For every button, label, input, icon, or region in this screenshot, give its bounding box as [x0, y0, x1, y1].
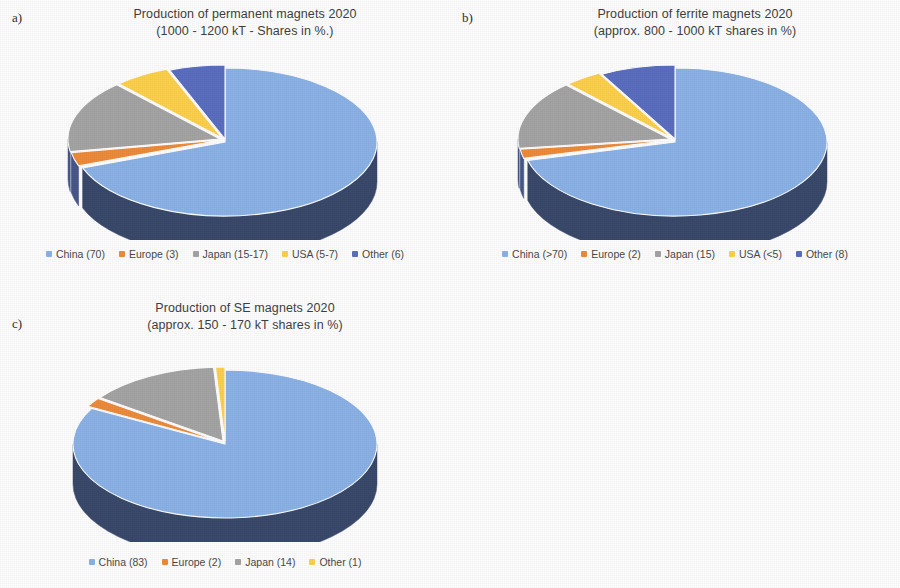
pie-stage-a	[55, 50, 395, 240]
legend-swatch-icon	[309, 559, 315, 565]
legend-swatch-icon	[282, 251, 288, 257]
panel-label-c: c)	[12, 316, 22, 332]
legend-swatch-icon	[729, 251, 735, 257]
chart-title-a-line2: (1000 - 1200 kT - Shares in %.)	[50, 23, 440, 40]
chart-title-b: Production of ferrite magnets 2020 (appr…	[500, 6, 890, 40]
legend-label: USA (<5)	[739, 248, 782, 260]
legend-swatch-icon	[119, 251, 125, 257]
chart-panel-c: c) Production of SE magnets 2020 (approx…	[0, 294, 450, 588]
pie-chart-a	[55, 50, 395, 240]
figure-sheet: a) Production of permanent magnets 2020 …	[0, 0, 900, 588]
legend-item-japan[interactable]: Japan (14)	[235, 556, 295, 568]
legend-c: China (83)Europe (2)Japan (14)Other (1)	[0, 556, 450, 568]
legend-item-europe[interactable]: Europe (2)	[581, 248, 641, 260]
legend-swatch-icon	[502, 251, 508, 257]
legend-swatch-icon	[89, 559, 95, 565]
legend-label: Europe (3)	[129, 248, 179, 260]
legend-label: Japan (14)	[245, 556, 295, 568]
chart-title-c-line2: (approx. 150 - 170 kT shares in %)	[50, 317, 440, 334]
legend-label: Europe (2)	[172, 556, 222, 568]
legend-swatch-icon	[193, 251, 199, 257]
legend-item-japan[interactable]: Japan (15-17)	[193, 248, 268, 260]
legend-swatch-icon	[655, 251, 661, 257]
pie-stage-c	[55, 352, 395, 542]
legend-label: Japan (15)	[665, 248, 715, 260]
legend-label: Other (6)	[362, 248, 404, 260]
legend-item-other[interactable]: Other (1)	[309, 556, 361, 568]
legend-swatch-icon	[46, 251, 52, 257]
legend-item-other[interactable]: Other (8)	[796, 248, 848, 260]
chart-panel-a: a) Production of permanent magnets 2020 …	[0, 0, 450, 294]
chart-title-b-line1: Production of ferrite magnets 2020	[597, 7, 792, 21]
legend-a: China (70)Europe (3)Japan (15-17)USA (5-…	[0, 248, 450, 260]
legend-label: Europe (2)	[591, 248, 641, 260]
legend-item-japan[interactable]: Japan (15)	[655, 248, 715, 260]
legend-label: Other (8)	[806, 248, 848, 260]
legend-item-europe[interactable]: Europe (3)	[119, 248, 179, 260]
legend-item-other[interactable]: Other (6)	[352, 248, 404, 260]
legend-b: China (>70)Europe (2)Japan (15)USA (<5)O…	[450, 248, 900, 260]
panel-label-b: b)	[462, 10, 473, 26]
chart-title-c: Production of SE magnets 2020 (approx. 1…	[50, 300, 440, 334]
legend-label: China (>70)	[512, 248, 567, 260]
legend-label: Other (1)	[319, 556, 361, 568]
chart-title-c-line1: Production of SE magnets 2020	[155, 301, 334, 315]
pie-stage-b	[505, 50, 845, 240]
legend-item-china[interactable]: China (70)	[46, 248, 105, 260]
legend-swatch-icon	[352, 251, 358, 257]
legend-item-usa[interactable]: USA (5-7)	[282, 248, 338, 260]
legend-swatch-icon	[581, 251, 587, 257]
legend-label: China (70)	[56, 248, 105, 260]
chart-panel-b: b) Production of ferrite magnets 2020 (a…	[450, 0, 900, 294]
legend-label: Japan (15-17)	[203, 248, 268, 260]
chart-title-b-line2: (approx. 800 - 1000 kT shares in %)	[500, 23, 890, 40]
legend-swatch-icon	[235, 559, 241, 565]
legend-item-china[interactable]: China (>70)	[502, 248, 567, 260]
chart-title-a: Production of permanent magnets 2020 (10…	[50, 6, 440, 40]
pie-chart-c	[55, 352, 395, 542]
legend-swatch-icon	[796, 251, 802, 257]
panel-label-a: a)	[12, 10, 22, 26]
pie-chart-b	[505, 50, 845, 240]
legend-swatch-icon	[162, 559, 168, 565]
legend-item-china[interactable]: China (83)	[89, 556, 148, 568]
legend-item-europe[interactable]: Europe (2)	[162, 556, 222, 568]
chart-title-a-line1: Production of permanent magnets 2020	[133, 7, 356, 21]
legend-label: China (83)	[99, 556, 148, 568]
legend-item-usa[interactable]: USA (<5)	[729, 248, 782, 260]
legend-label: USA (5-7)	[292, 248, 338, 260]
